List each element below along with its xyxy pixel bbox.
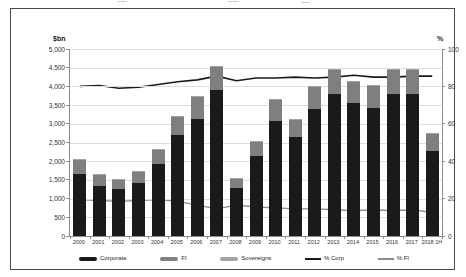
left-tick-label: 1,500	[31, 176, 65, 183]
stacked-bar	[73, 49, 86, 236]
right-tick-label: 20	[448, 195, 455, 202]
x-axis-label: 2009	[245, 239, 265, 245]
x-axis-label: 2000	[69, 239, 89, 245]
bar-segment-sovereigns	[406, 69, 419, 70]
left-axis-tick	[66, 236, 69, 237]
plot-area	[69, 49, 443, 237]
right-axis-title: %	[437, 35, 443, 42]
bar-segment-corporate	[93, 186, 106, 236]
x-axis-label: 2001	[89, 239, 109, 245]
bar-segment-fi	[132, 171, 145, 182]
bar-segment-sovereigns	[387, 69, 400, 70]
left-tick-label: 2,000	[31, 158, 65, 165]
bar-segment-corporate	[289, 137, 302, 236]
bar-segment-fi	[171, 116, 184, 135]
left-tick-label: 5,000	[31, 46, 65, 53]
x-axis-label: 2003	[128, 239, 148, 245]
bar-segment-sovereigns	[308, 86, 321, 87]
bar-segment-fi	[269, 100, 282, 121]
bar-segment-corporate	[367, 108, 380, 236]
right-tick-label: 40	[448, 158, 455, 165]
left-tick-label: 0	[31, 233, 65, 240]
x-axis-label: 2013	[324, 239, 344, 245]
left-axis-tick	[66, 67, 69, 68]
bar-segment-fi	[308, 87, 321, 109]
left-tick-label: 2,500	[31, 139, 65, 146]
stacked-bar	[250, 49, 263, 236]
bar-segment-fi	[426, 133, 439, 151]
left-axis-tick	[66, 86, 69, 87]
x-axis-label: 2015	[363, 239, 383, 245]
stacked-bar	[426, 49, 439, 236]
x-axis-label: 2007	[206, 239, 226, 245]
bar-segment-corporate	[308, 109, 321, 236]
right-axis-tick	[442, 161, 445, 162]
stacked-bar	[308, 49, 321, 236]
stacked-bar	[387, 49, 400, 236]
left-axis-tick	[66, 49, 69, 50]
legend-label: FI	[181, 255, 186, 262]
bar-segment-fi	[289, 120, 302, 137]
left-axis-tick	[66, 198, 69, 199]
bar-segment-fi	[328, 70, 341, 94]
right-axis-tick	[442, 123, 445, 124]
chart-frame: $bn % CorporateFISovereigns% Corp% FI 5,…	[10, 8, 455, 270]
bar-segment-sovereigns	[328, 69, 341, 70]
left-axis-tick	[66, 217, 69, 218]
cropped-title-artifact	[228, 1, 239, 2]
left-tick-label: 500	[31, 214, 65, 221]
bar-segment-corporate	[132, 183, 145, 236]
bar-segment-corporate	[406, 94, 419, 236]
bar-segment-fi	[406, 70, 419, 94]
legend-swatch--corp	[305, 258, 321, 260]
stacked-bar	[152, 49, 165, 236]
bar-segment-sovereigns	[347, 81, 360, 82]
stacked-bar	[112, 49, 125, 236]
left-axis-tick	[66, 161, 69, 162]
stacked-bar	[132, 49, 145, 236]
stacked-bar	[328, 49, 341, 236]
right-tick-label: 0	[448, 233, 452, 240]
bar-segment-sovereigns	[210, 66, 223, 67]
bar-segment-corporate	[250, 156, 263, 236]
bar-segment-fi	[347, 82, 360, 103]
bar-segment-corporate	[230, 188, 243, 236]
stacked-bar	[406, 49, 419, 236]
stacked-bar	[210, 49, 223, 236]
bar-segment-fi	[210, 67, 223, 90]
stacked-bar	[347, 49, 360, 236]
bar-segment-corporate	[191, 119, 204, 236]
bar-segment-fi	[250, 141, 263, 156]
x-axis-label: 2004	[147, 239, 167, 245]
legend-label: Corporate	[100, 255, 127, 262]
bar-segment-corporate	[112, 189, 125, 236]
left-axis-tick	[66, 123, 69, 124]
left-tick-label: 1,000	[31, 195, 65, 202]
bar-segment-corporate	[426, 151, 439, 236]
left-tick-label: 4,000	[31, 83, 65, 90]
stacked-bar	[230, 49, 243, 236]
legend-label: % Corp	[324, 255, 344, 262]
x-axis-label: 2017	[402, 239, 422, 245]
cropped-title-artifact	[118, 1, 127, 2]
right-tick-label: 60	[448, 120, 455, 127]
bar-segment-corporate	[73, 174, 86, 236]
bar-segment-corporate	[387, 94, 400, 236]
bar-segment-corporate	[152, 164, 165, 236]
legend-swatch-sovereigns	[220, 257, 238, 261]
x-axis-label: 2010	[265, 239, 285, 245]
legend-swatch-corporate	[79, 257, 97, 261]
bar-segment-fi	[191, 97, 204, 119]
x-axis-label: 2002	[108, 239, 128, 245]
left-tick-label: 3,500	[31, 102, 65, 109]
left-tick-label: 4,500	[31, 64, 65, 71]
stacked-bar	[367, 49, 380, 236]
bar-segment-corporate	[269, 121, 282, 236]
bar-segment-corporate	[210, 90, 223, 236]
x-axis-label: 2011	[284, 239, 304, 245]
right-axis-tick	[442, 49, 445, 50]
x-axis-tick	[442, 236, 443, 239]
legend-item: FI	[160, 255, 186, 262]
legend-item: Sovereigns	[220, 255, 271, 262]
x-axis-label: 2014	[343, 239, 363, 245]
